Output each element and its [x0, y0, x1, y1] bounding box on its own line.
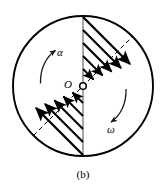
rotating-disk-diagram: [0, 0, 166, 188]
label-angular-acceleration: α: [57, 47, 63, 58]
label-origin: O: [64, 79, 72, 90]
figure-container: α a ω O (b): [0, 0, 166, 188]
figure-caption: (b): [0, 168, 166, 180]
label-linear-acceleration: a: [121, 51, 127, 62]
center-hub-icon: [80, 83, 87, 90]
label-angular-velocity: ω: [107, 124, 115, 135]
